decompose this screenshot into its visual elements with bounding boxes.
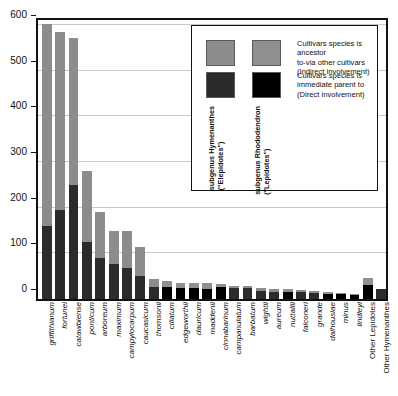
x-axis-label-campanulatum: campanulatum [235, 302, 243, 354]
bar-nuttallii[interactable] [283, 289, 293, 299]
bar-segment-direct [363, 285, 373, 299]
bar-lindleyi[interactable] [350, 294, 360, 299]
y-axis-tick-label: 200 [10, 192, 27, 203]
bar-segment-direct [69, 185, 79, 299]
bar-segment-direct [376, 289, 386, 299]
x-axis-label-campylocarpum: campylocarpum [128, 302, 136, 358]
bar-thomsonii[interactable] [149, 279, 159, 299]
bar-caucasicum[interactable] [135, 247, 145, 299]
bar-arboreum[interactable] [95, 212, 105, 299]
y-axis-tick-label: 0 [21, 283, 27, 294]
legend-column-label-rhododendron: subgenus Rhododendron ("Lepidotes") [254, 106, 271, 195]
x-axis-label-lindleyi: lindleyi [356, 302, 364, 326]
bar-other-lepidotes[interactable] [363, 278, 373, 299]
bar-segment-direct [350, 295, 360, 299]
y-axis: 0100200300400500600 [0, 18, 36, 301]
bar-segment-direct [82, 242, 92, 299]
y-axis-tick: 100 [10, 237, 36, 249]
x-axis-label-ciliatum: ciliatum [168, 302, 176, 329]
x-axis-label-arboreum: arboreum [101, 302, 109, 336]
x-axis-label-caucasicum: caucasicum [142, 302, 150, 344]
legend-swatch-direct-hymenanthes [206, 72, 235, 98]
legend-column-label-hymenanthes: subgenus Hymenanthes ("Elepidotes") [208, 106, 225, 190]
bar-ciliatum[interactable] [162, 281, 172, 299]
bar-segment-direct [243, 288, 253, 299]
bar-segment-direct [135, 276, 145, 299]
x-axis-label-maximum: maximum [115, 302, 123, 337]
y-axis-tick: 200 [10, 192, 36, 204]
bar-chart-figure: 0100200300400500600 griffithianumfortune… [0, 0, 398, 396]
x-axis-label-barbatum: barbatum [249, 302, 257, 336]
y-axis-tick-label: 400 [10, 100, 27, 111]
y-axis-tick-label: 600 [10, 9, 27, 20]
bar-segment-direct [55, 210, 65, 299]
bar-maddenii[interactable] [202, 283, 212, 299]
bar-segment-direct [256, 291, 266, 299]
bar-segment-direct [42, 226, 52, 299]
bar-edgeworthii[interactable] [176, 283, 186, 299]
x-axis-label-fortunei: fortunei [61, 302, 69, 329]
bar-segment-direct [109, 264, 119, 299]
y-axis-tick: 300 [10, 146, 36, 158]
bar-segment-direct [229, 288, 239, 299]
bar-segment-direct [189, 288, 199, 299]
bar-other-hymenanthes[interactable] [376, 289, 386, 299]
bar-campylocarpum[interactable] [122, 231, 132, 299]
x-axis-label-maddenii: maddenii [209, 302, 217, 334]
bar-fortunei[interactable] [55, 32, 65, 299]
bar-aureum[interactable] [269, 289, 279, 299]
bar-ponticum[interactable] [82, 171, 92, 299]
x-axis-label-minus: minus [342, 302, 350, 323]
bar-segment-direct [176, 288, 186, 299]
y-axis-tick: 500 [10, 55, 36, 67]
x-axis-label-edgeworthii: edgeworthii [182, 302, 190, 343]
x-axis-label-ponticum: ponticum [88, 302, 96, 334]
bar-falconeri[interactable] [296, 290, 306, 299]
x-axis-label-aureum: aureum [275, 302, 283, 329]
legend-swatch-indirect-rhododendron [252, 40, 281, 66]
bar-segment-direct [269, 292, 279, 299]
bar-segment-direct [336, 294, 346, 299]
bar-segment-direct [283, 292, 293, 299]
y-axis-tick-label: 100 [10, 237, 27, 248]
y-axis-tick-label: 500 [10, 55, 27, 66]
x-axis-label-other-lepidotes: Other Lepidotes [369, 302, 377, 359]
x-axis-label-griffithianum: griffithianum [48, 302, 56, 346]
bar-griffithianum[interactable] [42, 24, 52, 299]
bar-barbatum[interactable] [243, 286, 253, 299]
bar-segment-direct [296, 292, 306, 299]
bar-segment-direct [149, 287, 159, 299]
bar-maximum[interactable] [109, 231, 119, 299]
x-axis-label-dalhousiae: dalhousiae [329, 302, 337, 341]
bar-segment-direct [309, 293, 319, 299]
x-axis-label-wightii: wightii [262, 302, 270, 324]
x-axis-label-other-hymenanthes: Other Hymenanthes [383, 302, 391, 374]
bar-wightii[interactable] [256, 288, 266, 299]
bar-dauricum[interactable] [189, 283, 199, 299]
bar-segment-direct [122, 268, 132, 299]
legend-swatch-direct-rhododendron [252, 72, 281, 98]
y-axis-tick: 400 [10, 100, 36, 112]
y-axis-tick: 0 [21, 283, 36, 295]
legend-label-direct: Cultivars species is immediate parent to… [297, 71, 377, 99]
x-axis-label-dauricum: dauricum [195, 302, 203, 335]
bar-minus[interactable] [336, 293, 346, 299]
bar-cinnabarinum[interactable] [216, 284, 226, 299]
x-axis-label-nuttallii: nuttallii [289, 302, 297, 327]
y-axis-tick: 600 [10, 9, 36, 21]
bar-segment-direct [323, 294, 333, 299]
x-axis-labels: griffithianumfortuneicatawbienseponticum… [36, 302, 388, 396]
bar-segment-direct [216, 287, 226, 299]
x-axis-label-thomsonii: thomsonii [155, 302, 163, 336]
bar-dalhousiae[interactable] [323, 292, 333, 299]
chart-legend: Cultivars species is ancestor to-via oth… [191, 25, 378, 191]
bar-segment-direct [95, 258, 105, 299]
bar-grande[interactable] [309, 291, 319, 299]
legend-swatch-indirect-hymenanthes [206, 40, 235, 66]
x-axis-label-cinnabarinum: cinnabarinum [222, 302, 230, 350]
bar-campanulatum[interactable] [229, 286, 239, 299]
x-axis-label-falconeri: falconeri [302, 302, 310, 332]
x-axis-label-catawbiense: catawbiense [75, 302, 83, 346]
bar-catawbiense[interactable] [69, 38, 79, 299]
y-axis-tick-label: 300 [10, 146, 27, 157]
